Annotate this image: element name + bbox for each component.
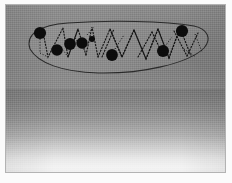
photo-panel <box>6 5 225 172</box>
panel-shading-overlay <box>6 5 225 172</box>
figure-root <box>0 0 232 183</box>
